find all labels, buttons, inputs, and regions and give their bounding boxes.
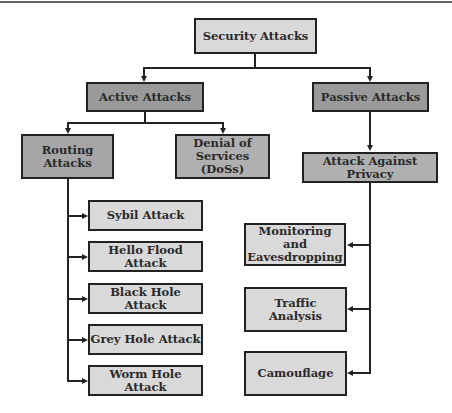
node-camouflage: Camouflage [244, 351, 347, 396]
node-label: Active Attacks [99, 91, 191, 104]
connector [67, 339, 83, 341]
node-security-attacks: Security Attacks [194, 18, 317, 54]
node-label: Camouflage [258, 367, 334, 380]
node-routing-attacks: Routing Attacks [21, 134, 114, 179]
connector [369, 112, 371, 146]
node-passive-attacks: Passive Attacks [312, 82, 429, 112]
connector [67, 179, 69, 381]
node-label: Attack Against Privacy [304, 155, 436, 181]
arrow-left-icon [347, 306, 353, 312]
security-attacks-diagram: Security Attacks Active Attacks Passive … [0, 0, 452, 413]
node-label: Passive Attacks [321, 91, 420, 104]
node-grey-hole-attack: Grey Hole Attack [88, 324, 203, 355]
arrow-left-icon [347, 370, 353, 376]
node-label: Hello Flood Attack [90, 244, 201, 270]
connector [67, 122, 224, 124]
node-label: Traffic Analysis [246, 297, 345, 323]
node-traffic-analysis: Traffic Analysis [244, 287, 347, 332]
top-rule [0, 1, 452, 3]
node-denial-of-services: Denial of Services (DoSs) [175, 134, 270, 179]
node-label: Worm Hole Attack [90, 368, 201, 394]
arrow-down-icon [367, 145, 373, 151]
node-monitoring-eavesdropping: Monitoring and Eavesdropping [244, 223, 346, 266]
connector [67, 380, 83, 382]
node-label: Sybil Attack [107, 209, 185, 222]
node-attack-against-privacy: Attack Against Privacy [302, 152, 438, 183]
node-label: Grey Hole Attack [91, 333, 201, 346]
arrow-left-icon [347, 242, 353, 248]
connector [67, 298, 83, 300]
connector [67, 215, 83, 217]
node-label: Denial of Services (DoSs) [177, 137, 268, 176]
connector [352, 244, 370, 246]
connector [143, 67, 371, 69]
connector [254, 54, 256, 68]
node-worm-hole-attack: Worm Hole Attack [88, 365, 203, 396]
connector [369, 183, 371, 374]
node-label: Black Hole Attack [90, 286, 201, 312]
connector [352, 372, 370, 374]
node-sybil-attack: Sybil Attack [88, 200, 203, 231]
connector [67, 256, 83, 258]
node-label: Monitoring and Eavesdropping [246, 225, 344, 264]
node-black-hole-attack: Black Hole Attack [88, 283, 203, 314]
node-label: Routing Attacks [23, 144, 112, 170]
node-active-attacks: Active Attacks [86, 82, 204, 112]
node-hello-flood-attack: Hello Flood Attack [88, 241, 203, 272]
connector [352, 308, 370, 310]
node-label: Security Attacks [203, 30, 309, 43]
